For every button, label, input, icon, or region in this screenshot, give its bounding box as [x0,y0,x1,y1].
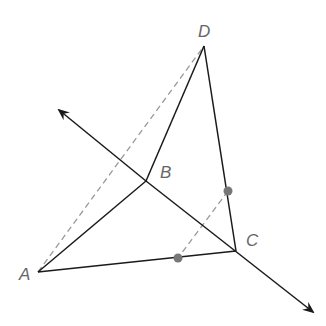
segment-DC [204,46,236,251]
point-label-A: A [19,265,30,285]
segment-AD-dashed [38,46,204,272]
segment-AC [38,251,236,272]
midpoint-dot-AC [174,254,183,263]
segment-dashed-midpoints [178,191,228,258]
midpoint-dot-DC [224,187,233,196]
point-label-B: B [160,163,171,183]
line-BC-backward [59,110,146,181]
point-label-D: D [198,22,210,42]
point-label-C: C [246,231,258,251]
diagram-canvas: D B C A [0,0,326,326]
line-BC-forward [146,181,313,312]
segment-AB [38,181,146,272]
segment-BD [146,46,204,181]
